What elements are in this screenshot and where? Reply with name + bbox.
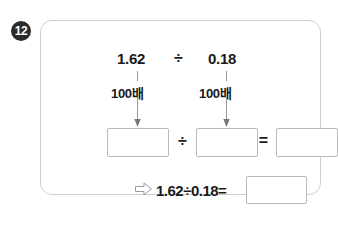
final-answer-box[interactable] <box>246 176 307 204</box>
divisor-decimal-value: 0.18 <box>208 50 236 67</box>
work-row-divide-sign: ÷ <box>175 132 190 150</box>
final-equation-text: 1.62÷0.18= <box>156 182 226 199</box>
quotient-answer-box[interactable] <box>276 128 338 157</box>
divisor-down-arrow-icon <box>222 71 231 127</box>
dividend-down-arrow-icon <box>133 71 142 127</box>
problem-card: 1.62 ÷ 0.18 100배 100배 ÷ = 1.62÷0.18= <box>40 20 321 195</box>
divisor-answer-box[interactable] <box>196 128 258 157</box>
top-divide-sign: ÷ <box>174 49 183 67</box>
dividend-decimal-value: 1.62 <box>117 50 145 67</box>
work-row-equals-sign: = <box>256 132 271 150</box>
hollow-right-arrow-icon <box>135 182 152 196</box>
problem-number-badge: 12 <box>11 21 31 41</box>
dividend-answer-box[interactable] <box>107 128 169 157</box>
